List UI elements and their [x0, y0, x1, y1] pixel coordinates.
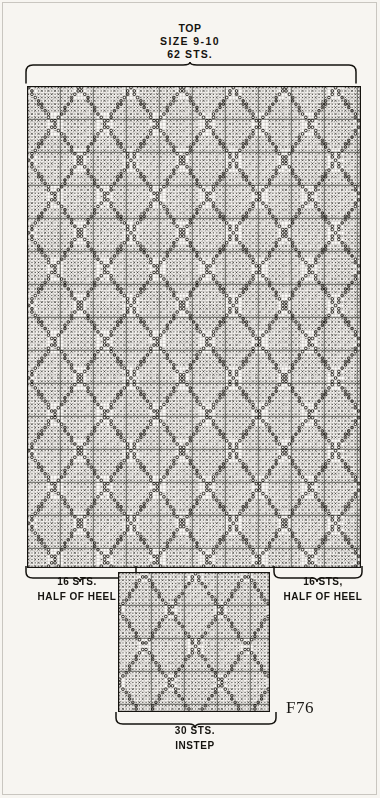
- half-heel-right-line-1: 16 STS,: [268, 574, 378, 589]
- top-caption-line-3: 62 STS.: [0, 48, 380, 61]
- instep-caption-line-1: 30 STS.: [110, 724, 280, 739]
- instep-caption-line-2: INSTEP: [110, 739, 280, 754]
- top-caption: TOP SIZE 9-10 62 STS.: [0, 22, 380, 60]
- instep-chart[interactable]: [118, 572, 270, 712]
- brace-top: [24, 62, 358, 84]
- main-chart[interactable]: [27, 86, 361, 568]
- instep-caption: 30 STS. INSTEP: [110, 724, 280, 753]
- top-caption-line-1: TOP: [0, 22, 380, 35]
- plate-number: F76: [286, 698, 314, 718]
- top-caption-line-2: SIZE 9-10: [0, 35, 380, 48]
- half-heel-right-line-2: HALF OF HEEL: [268, 589, 378, 604]
- half-heel-right-caption: 16 STS, HALF OF HEEL: [268, 574, 378, 604]
- chart-page: TOP SIZE 9-10 62 STS. 16 STS. HALF OF HE…: [0, 0, 380, 798]
